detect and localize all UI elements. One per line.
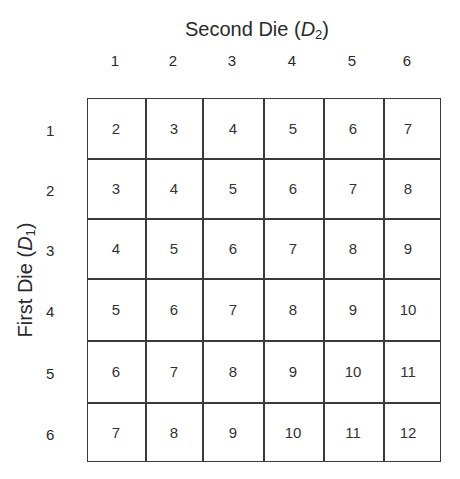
column-header: 3 bbox=[228, 52, 236, 69]
sum-cell: 8 bbox=[170, 424, 178, 441]
sum-cell: 12 bbox=[400, 424, 417, 441]
title-var: D bbox=[301, 18, 315, 40]
sum-cell: 3 bbox=[170, 120, 178, 137]
sum-cell: 5 bbox=[112, 301, 120, 318]
ylabel-prefix: First Die ( bbox=[14, 251, 36, 338]
vertical-grid-line bbox=[323, 98, 325, 462]
sum-cell: 4 bbox=[112, 240, 120, 257]
ylabel-var: D bbox=[14, 236, 36, 250]
sum-cell: 7 bbox=[404, 120, 412, 137]
sum-cell: 8 bbox=[229, 363, 237, 380]
column-header: 2 bbox=[169, 52, 177, 69]
row-header: 4 bbox=[46, 303, 54, 320]
sum-cell: 9 bbox=[404, 240, 412, 257]
sum-cell: 5 bbox=[170, 240, 178, 257]
sum-cell: 9 bbox=[349, 301, 357, 318]
sum-cell: 7 bbox=[170, 363, 178, 380]
sum-cell: 4 bbox=[229, 120, 237, 137]
vertical-grid-line bbox=[383, 98, 385, 462]
vertical-grid-line bbox=[202, 98, 204, 462]
sum-cell: 6 bbox=[229, 240, 237, 257]
column-header: 4 bbox=[288, 52, 296, 69]
sum-cell: 9 bbox=[229, 424, 237, 441]
horizontal-grid-line bbox=[87, 402, 441, 404]
sum-cell: 7 bbox=[112, 424, 120, 441]
sum-cell: 4 bbox=[170, 180, 178, 197]
horizontal-grid-line bbox=[87, 158, 441, 160]
row-header: 5 bbox=[46, 365, 54, 382]
column-header: 5 bbox=[348, 52, 356, 69]
column-header: 1 bbox=[111, 52, 119, 69]
sum-cell: 2 bbox=[112, 120, 120, 137]
sum-cell: 6 bbox=[112, 363, 120, 380]
vertical-grid-line bbox=[145, 98, 147, 462]
sum-cell: 5 bbox=[229, 180, 237, 197]
sum-cell: 7 bbox=[229, 301, 237, 318]
horizontal-grid-line bbox=[87, 278, 441, 280]
row-axis-title: First Die (D1) bbox=[14, 222, 38, 337]
sum-cell: 5 bbox=[289, 120, 297, 137]
sum-cell: 7 bbox=[349, 180, 357, 197]
sum-cell: 8 bbox=[404, 180, 412, 197]
sum-cell: 8 bbox=[289, 301, 297, 318]
row-header: 2 bbox=[46, 182, 54, 199]
row-header: 6 bbox=[46, 426, 54, 443]
title-suffix: ) bbox=[322, 18, 329, 40]
ylabel-sub: 1 bbox=[23, 229, 38, 236]
sum-cell: 6 bbox=[289, 180, 297, 197]
title-prefix: Second Die ( bbox=[185, 18, 301, 40]
column-header: 6 bbox=[403, 52, 411, 69]
vertical-grid-line bbox=[263, 98, 265, 462]
sum-cell: 8 bbox=[349, 240, 357, 257]
sum-cell: 3 bbox=[112, 180, 120, 197]
sum-cell: 11 bbox=[345, 424, 361, 441]
sum-cell: 6 bbox=[349, 120, 357, 137]
sum-cell: 6 bbox=[170, 301, 178, 318]
row-header: 1 bbox=[46, 122, 54, 139]
sum-cell: 9 bbox=[289, 363, 297, 380]
sum-cell: 11 bbox=[400, 363, 416, 380]
sum-cell: 10 bbox=[400, 301, 417, 318]
ylabel-suffix: ) bbox=[14, 222, 36, 229]
horizontal-grid-line bbox=[87, 218, 441, 220]
sum-cell: 10 bbox=[285, 424, 302, 441]
column-axis-title: Second Die (D2) bbox=[185, 18, 329, 42]
sum-cell: 10 bbox=[345, 363, 362, 380]
sum-cell: 7 bbox=[289, 240, 297, 257]
row-header: 3 bbox=[46, 242, 54, 259]
horizontal-grid-line bbox=[87, 340, 441, 342]
